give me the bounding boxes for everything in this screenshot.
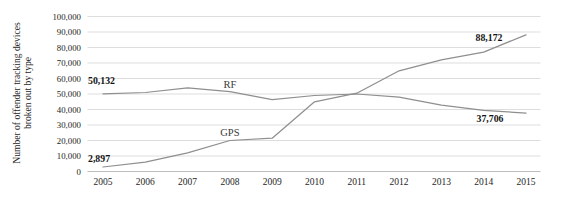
y-axis-tick-label: 40,000 [57,105,82,115]
data-point-label: 37,706 [477,113,504,124]
y-axis-tick-label: 20,000 [57,136,82,146]
y-axis-tick-label: 50,000 [57,89,82,99]
data-point-label: 2,897 [88,153,110,164]
x-axis-tick-label: 2006 [136,177,155,187]
x-axis-tick-label: 2015 [517,177,536,187]
y-axis-tick-label: 0 [77,167,82,177]
x-axis-tick-label: 2005 [94,177,113,187]
series-label-gps: GPS [220,127,239,138]
y-axis-title-line: Number of offender tracking devices [11,22,22,164]
x-axis-tick-label: 2013 [432,177,451,187]
y-axis-tick-label: 60,000 [57,74,82,84]
y-axis-tick-label: 70,000 [57,58,82,68]
x-axis-tick-label: 2011 [347,177,366,187]
gps-series-line [103,35,526,167]
x-axis-tick-label: 2007 [178,177,197,187]
series-label-rf: RF [223,79,236,90]
y-axis-tick-label: 30,000 [57,120,82,130]
line-chart-canvas: 010,00020,00030,00040,00050,00060,00070,… [0,0,564,202]
y-axis-tick-label: 90,000 [57,27,82,37]
x-axis-tick-label: 2012 [390,177,409,187]
x-axis-tick-label: 2008 [220,177,239,187]
y-axis-tick-label: 80,000 [57,43,82,53]
y-axis-title-line: broken out by type [22,57,33,129]
y-axis-tick-label: 100,000 [52,12,81,22]
data-point-label: 88,172 [476,32,503,43]
x-axis-tick-label: 2014 [474,177,493,187]
offender-tracking-devices-chart: 010,00020,00030,00040,00050,00060,00070,… [0,0,564,202]
x-axis-tick-label: 2009 [263,177,282,187]
x-axis-tick-label: 2010 [305,177,324,187]
y-axis-tick-label: 10,000 [57,151,82,161]
data-point-label: 50,132 [88,75,115,86]
